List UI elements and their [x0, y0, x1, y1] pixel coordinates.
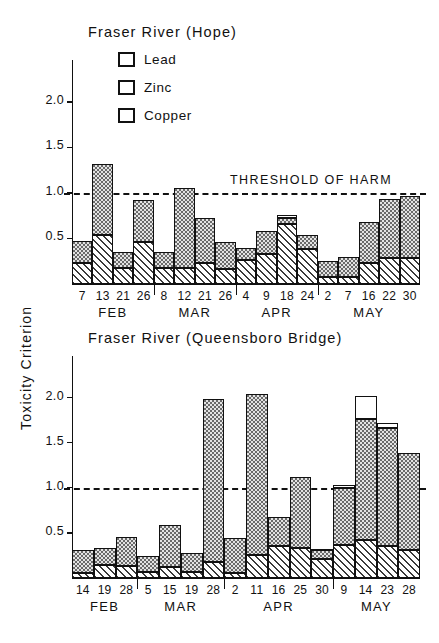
bar[interactable]	[94, 366, 116, 578]
bar-segment-zinc	[277, 218, 297, 224]
x-tick-label: 13	[96, 289, 110, 303]
legend-item-zinc[interactable]: Zinc	[118, 80, 172, 95]
y-tick-label: 2.0	[26, 389, 64, 403]
bar[interactable]	[379, 70, 399, 284]
bar-segment-copper	[195, 263, 215, 284]
month-separator	[333, 579, 334, 589]
bar[interactable]	[133, 70, 153, 284]
bar-segment-copper	[137, 572, 159, 578]
bar[interactable]	[400, 70, 420, 284]
bar[interactable]	[159, 366, 181, 578]
month-label: APR	[261, 305, 292, 320]
bar-segment-copper	[318, 277, 338, 284]
bar-segment-copper	[116, 566, 138, 578]
y-tick-label: 1.5	[26, 138, 64, 152]
bar-segment-copper	[181, 572, 203, 578]
bar[interactable]	[181, 366, 203, 578]
bar[interactable]	[92, 70, 112, 284]
x-tick-label: 30	[315, 583, 329, 597]
bar-segment-zinc	[377, 428, 399, 545]
bar-segment-copper	[268, 546, 290, 578]
bar[interactable]	[256, 70, 276, 284]
x-tick-label: 14	[76, 583, 90, 597]
bar[interactable]	[268, 366, 290, 578]
bar-segment-copper	[215, 269, 235, 284]
bar[interactable]	[224, 366, 246, 578]
x-tick-label: 16	[362, 289, 376, 303]
bar[interactable]	[154, 70, 174, 284]
bar-segment-copper	[297, 249, 317, 284]
bar[interactable]	[398, 366, 420, 578]
x-tick-label: 19	[98, 583, 112, 597]
legend-item-copper[interactable]: Copper	[118, 108, 192, 123]
bar-segment-lead	[277, 215, 297, 218]
x-tick-label: 19	[185, 583, 199, 597]
bar-segment-copper	[338, 277, 358, 284]
x-tick-label: 22	[382, 289, 396, 303]
bar[interactable]	[290, 366, 312, 578]
bar[interactable]	[174, 70, 194, 284]
bar[interactable]	[355, 366, 377, 578]
bar[interactable]	[297, 70, 317, 284]
bar[interactable]	[137, 366, 159, 578]
month-label: FEB	[90, 599, 119, 614]
bar-segment-copper	[290, 548, 312, 578]
bar[interactable]	[318, 70, 338, 284]
bar[interactable]	[377, 366, 399, 578]
month-separator	[224, 579, 225, 589]
bar[interactable]	[311, 366, 333, 578]
bar-segment-copper	[355, 540, 377, 578]
bar-segment-zinc	[400, 196, 420, 258]
x-tick-label: 7	[345, 289, 352, 303]
y-tick-label: 1.0	[26, 479, 64, 493]
x-tick-label: 14	[359, 583, 373, 597]
x-tick-label: 11	[250, 583, 263, 597]
bar[interactable]	[236, 70, 256, 284]
bar-segment-copper	[203, 562, 225, 578]
bar-segment-lead	[355, 396, 377, 419]
x-tick-label: 26	[219, 289, 233, 303]
chart-title: Fraser River (Hope)	[88, 24, 237, 40]
bar[interactable]	[215, 70, 235, 284]
bar[interactable]	[195, 70, 215, 284]
x-tick-label: 18	[280, 289, 294, 303]
x-tick-label: 25	[293, 583, 307, 597]
bar[interactable]	[72, 366, 94, 578]
bar[interactable]	[277, 70, 297, 284]
bar-segment-zinc	[174, 188, 194, 267]
bar-segment-lead	[333, 485, 355, 488]
bar-segment-zinc	[72, 550, 94, 573]
x-tick-label: 30	[403, 289, 417, 303]
legend-label: Zinc	[144, 80, 172, 95]
bar[interactable]	[246, 366, 268, 578]
month-label: MAY	[361, 599, 392, 614]
bar[interactable]	[338, 70, 358, 284]
bar[interactable]	[116, 366, 138, 578]
bar-segment-copper	[72, 263, 92, 284]
bar-segment-zinc	[137, 556, 159, 571]
x-tick-label: 8	[161, 289, 168, 303]
bar-segment-zinc	[398, 453, 420, 550]
legend-swatch-lead	[118, 52, 135, 67]
bar-segment-copper	[333, 545, 355, 578]
legend-item-lead[interactable]: Lead	[118, 52, 176, 67]
x-tick-label: 28	[119, 583, 133, 597]
bar[interactable]	[113, 70, 133, 284]
bar[interactable]	[203, 366, 225, 578]
x-tick-label: 15	[163, 583, 177, 597]
bar[interactable]	[72, 70, 92, 284]
bar-segment-zinc	[256, 231, 276, 254]
bar-segment-zinc	[195, 218, 215, 263]
x-tick-label: 28	[402, 583, 416, 597]
x-tick-label: 21	[116, 289, 130, 303]
x-axis-line	[72, 578, 420, 579]
bar[interactable]	[333, 366, 355, 578]
bar-segment-zinc	[159, 525, 181, 567]
bar-segment-zinc	[116, 537, 138, 567]
x-tick-label: 9	[263, 289, 270, 303]
bar-segment-copper	[133, 242, 153, 284]
bar[interactable]	[359, 70, 379, 284]
bar-segment-zinc	[94, 548, 116, 565]
bar-segment-zinc	[181, 553, 203, 572]
bar-segment-zinc	[333, 488, 355, 545]
